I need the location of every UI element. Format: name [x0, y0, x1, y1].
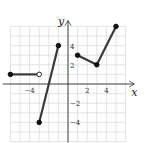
closed-endpoint	[114, 24, 119, 29]
piecewise-function-graph: xy −42442−2−4	[0, 0, 145, 143]
closed-endpoint	[8, 72, 13, 77]
y-tick-label: −2	[70, 100, 80, 108]
closed-endpoint	[95, 63, 100, 68]
open-endpoint	[37, 72, 42, 77]
x-axis-label: x	[131, 86, 138, 99]
y-tick-label: −4	[70, 119, 81, 127]
closed-endpoint	[75, 53, 80, 58]
segment-1	[8, 72, 41, 77]
x-tick-label: −4	[24, 87, 35, 95]
closed-endpoint	[56, 43, 61, 48]
y-axis-label: y	[57, 15, 65, 28]
y-tick-label: 4	[70, 43, 75, 51]
y-tick-label: 2	[70, 62, 74, 70]
x-tick-label: 2	[85, 87, 89, 95]
x-tick-label: 4	[104, 87, 109, 95]
closed-endpoint	[37, 120, 42, 125]
